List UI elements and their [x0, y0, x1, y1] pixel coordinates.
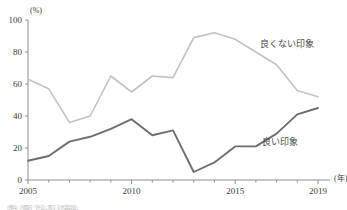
- y-tick-label: 0: [18, 175, 23, 185]
- y-tick-label: 20: [13, 143, 23, 153]
- x-tick-label: 2010: [123, 186, 142, 196]
- x-tick-label: 2015: [226, 186, 245, 196]
- x-axis-tick-labels: 2005201020152019: [19, 186, 328, 196]
- x-tick-label: 2019: [309, 186, 328, 196]
- data-series-group: [28, 33, 318, 172]
- x-tick-label: 2005: [19, 186, 38, 196]
- y-tick-label: 100: [9, 15, 23, 25]
- series-label-1: 良い印象: [262, 136, 298, 147]
- y-tick-label: 60: [13, 79, 23, 89]
- line-chart-plot: 020406080100 2005201020152019 (%) (年) 良く…: [0, 0, 347, 210]
- y-axis-tick-labels: 020406080100: [9, 15, 23, 185]
- chart-container: 020406080100 2005201020152019 (%) (年) 良く…: [0, 0, 347, 210]
- x-axis-ticks: [28, 180, 318, 184]
- y-axis-unit-label: (%): [30, 6, 42, 15]
- series-label-0: 良くない印象: [260, 38, 314, 49]
- y-tick-label: 40: [13, 111, 23, 121]
- source-footnote: （資料）内閣府「外交に関する世論調査」: [4, 204, 80, 210]
- x-axis-unit-label: (年): [334, 173, 347, 183]
- y-tick-label: 80: [13, 47, 23, 57]
